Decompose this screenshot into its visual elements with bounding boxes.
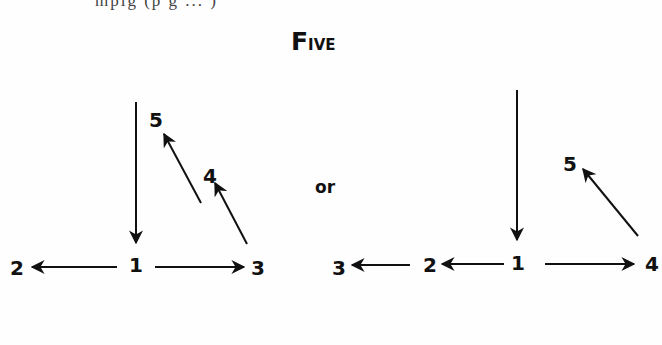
node-1: 1	[129, 255, 143, 275]
node-2: 2	[423, 255, 437, 275]
page: mpig (p g ... ) FIVE 12345 or 12345	[0, 0, 662, 345]
arrow-3-to-4	[215, 183, 247, 244]
node-5: 5	[149, 110, 163, 130]
node-3: 3	[251, 258, 265, 278]
node-1: 1	[511, 253, 525, 273]
or-separator: or	[315, 177, 335, 197]
node-4: 4	[203, 166, 217, 186]
arrow-4-to-5	[164, 134, 201, 203]
right-diagram-edges	[352, 90, 638, 265]
node-5: 5	[563, 154, 577, 174]
arrow-4-to-5	[583, 169, 638, 236]
node-4: 4	[645, 254, 659, 274]
node-2: 2	[10, 258, 24, 278]
node-3: 3	[332, 258, 346, 278]
